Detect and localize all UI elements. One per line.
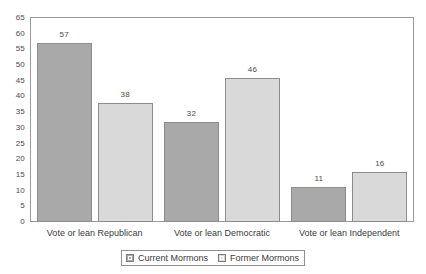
x-axis-label: Vote or lean Democratic [174,228,270,239]
y-axis-tick-45: 45 [16,77,25,85]
legend-swatch-icon [218,254,226,262]
x-axis-label: Vote or lean Independent [299,228,400,239]
legend-label: Former Mormons [230,253,299,263]
legend-entry[interactable]: Former Mormons [218,253,299,263]
y-axis-tick-40: 40 [16,92,25,100]
y-axis-tick-20: 20 [16,155,25,163]
y-axis-tick-25: 25 [16,140,25,148]
bar [164,122,219,222]
y-axis-tick-10: 10 [16,187,25,195]
y-axis-tick-35: 35 [16,108,25,116]
bar [37,43,92,222]
x-axis-category-labels: Vote or lean RepublicanVote or lean Demo… [31,228,413,242]
x-axis-label: Vote or lean Republican [47,228,143,239]
bar-value-label: 11 [314,175,323,183]
y-axis-tick-60: 60 [16,30,25,38]
bar-value-label: 57 [60,31,69,39]
y-axis: 05101520253035404550556065 [0,17,28,222]
legend-swatch-icon [126,254,134,262]
bar-value-label: 32 [187,110,196,118]
chart-legend: Current MormonsFormer Mormons [121,250,305,266]
bar-chart: 05101520253035404550556065 573832461116 … [0,0,426,274]
legend-entry[interactable]: Current Mormons [126,253,208,263]
y-axis-tick-55: 55 [16,45,25,53]
bar-value-label: 38 [121,91,130,99]
bar [291,187,346,222]
legend-label: Current Mormons [138,253,208,263]
bar-value-label: 46 [248,66,257,74]
bar [98,103,153,222]
y-axis-tick-15: 15 [16,171,25,179]
y-axis-tick-0: 0 [20,218,25,226]
bar-value-label: 16 [375,160,384,168]
y-axis-tick-65: 65 [16,14,25,22]
bar [352,172,407,222]
bar [225,78,280,222]
y-axis-tick-30: 30 [16,124,25,132]
y-axis-tick-5: 5 [20,202,25,210]
y-axis-tick-50: 50 [16,61,25,69]
bars-layer: 573832461116 [31,18,413,222]
